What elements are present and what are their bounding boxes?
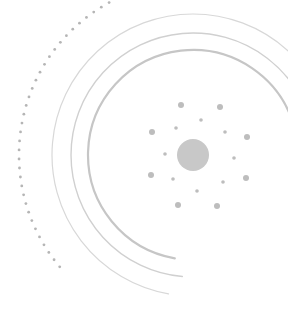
dotted-arc-dot: [18, 149, 21, 152]
satellite-dot: [178, 102, 184, 108]
dotted-arc-dot: [47, 251, 50, 254]
dotted-arc-dot: [48, 55, 51, 58]
satellite-dot: [175, 202, 181, 208]
dotted-arc-dot: [85, 16, 88, 19]
concentric-arcs: [52, 14, 288, 294]
dotted-arc: [18, 0, 171, 268]
dotted-arc-dot: [53, 258, 56, 261]
dotted-arc-dot: [39, 71, 42, 74]
core-dot: [177, 139, 209, 171]
satellite-dot: [149, 129, 155, 135]
satellite-dot: [244, 134, 250, 140]
satellite-dot: [174, 126, 178, 130]
dotted-arc-dot: [100, 6, 103, 9]
satellite-dot: [195, 189, 199, 193]
satellite-dot: [214, 203, 220, 209]
dotted-arc-dot: [43, 63, 46, 66]
dotted-arc-dot: [18, 140, 21, 143]
dotted-arc-dot: [35, 79, 38, 82]
dotted-arc-dot: [53, 48, 56, 51]
dotted-arc-dot: [59, 41, 62, 44]
dotted-arc-dot: [78, 22, 81, 25]
dotted-arc-dot: [28, 95, 31, 98]
satellite-dot: [199, 118, 203, 122]
dotted-arc-dot: [25, 104, 28, 107]
satellite-dot: [221, 180, 225, 184]
dotted-arc-dot: [22, 113, 25, 116]
satellite-dot: [223, 130, 227, 134]
dotted-arc-dot: [21, 122, 24, 125]
dotted-arc-dot: [58, 265, 61, 268]
satellite-dot: [217, 104, 223, 110]
dotted-arc-dot: [31, 87, 34, 90]
satellite-dot: [243, 175, 249, 181]
dotted-arc-dot: [18, 158, 21, 161]
dotted-arc-dot: [92, 11, 95, 14]
dotted-arc-dot: [108, 1, 111, 4]
dotted-arc-dot: [38, 236, 41, 239]
dotted-arc-dot: [25, 202, 28, 205]
dotted-arc-dot: [27, 211, 30, 214]
satellite-dot: [232, 156, 236, 160]
satellite-dot: [171, 177, 175, 181]
dotted-arc-dot: [30, 219, 33, 222]
dotted-arc-dot: [22, 193, 25, 196]
dotted-arc-dot: [19, 131, 22, 134]
satellite-dot: [163, 152, 167, 156]
dotted-arc-dot: [71, 28, 74, 31]
dotted-arc-dot: [34, 227, 37, 230]
dotted-arc-dot: [19, 176, 22, 179]
dotted-arc-dot: [43, 243, 46, 246]
satellite-dot: [148, 172, 154, 178]
dotted-arc-dot: [18, 167, 21, 170]
dotted-arc-dot: [65, 34, 68, 37]
radial-decorative-graphic: [0, 0, 288, 329]
dotted-arc-dot: [20, 185, 23, 188]
